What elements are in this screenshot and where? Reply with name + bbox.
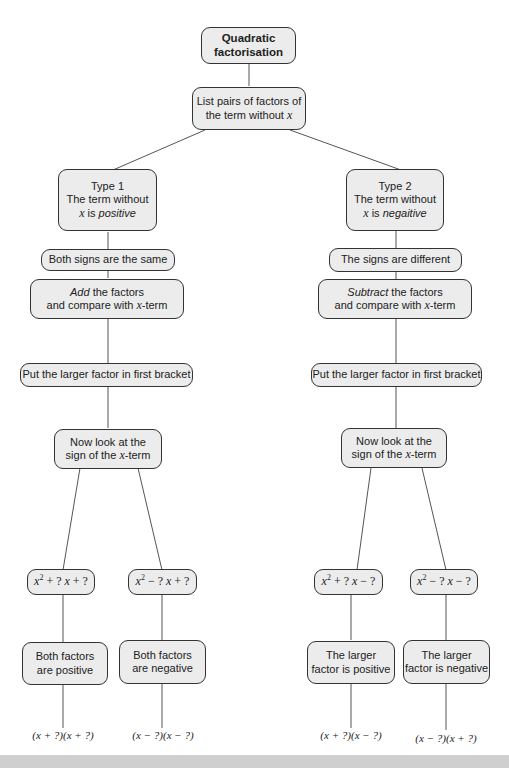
type1-result-2: (x − ?)(x − ?) (118, 729, 208, 741)
bottom-band (0, 755, 509, 768)
title-line2: factorisation (214, 46, 283, 60)
title-node: Quadratic factorisation (201, 27, 296, 64)
type2-signs-text: The signs are different (341, 253, 450, 267)
type1-desc-2: Both factors are negative (119, 640, 206, 684)
list-factors-node: List pairs of factors of the term withou… (192, 87, 306, 130)
type2-formula-1: x2 + ? x − ? (314, 569, 383, 595)
type2-desc-1: The larger factor is positive (307, 641, 395, 684)
type1-add-line1: Add the factors (70, 286, 144, 300)
type1-signs-text: Both signs are the same (49, 253, 168, 267)
type2-look-line1: Now look at the (356, 435, 432, 449)
type1-heading: Type 1 (91, 180, 124, 194)
type2-formula-2: x2 − ? x − ? (410, 569, 478, 595)
type2-subtract-node: Subtract the factors and compare with x-… (318, 279, 472, 319)
title-line1: Quadratic (222, 32, 276, 46)
type1-signs-node: Both signs are the same (41, 249, 175, 271)
list-factors-line1: List pairs of factors of (197, 95, 302, 109)
type2-result-1: (x + ?)(x − ?) (306, 729, 396, 741)
type2-desc-2: The larger factor is negative (403, 640, 490, 684)
type1-formula-2: x2 − ? x + ? (128, 569, 197, 595)
type1-line3: x is positive (79, 207, 136, 221)
type1-formula-1: x2 + ? x + ? (27, 569, 95, 595)
type1-add-line2: and compare with x-term (47, 299, 168, 313)
type2-line2: The term without (354, 193, 436, 207)
type1-bracket-node: Put the larger factor in first bracket (20, 363, 193, 387)
type2-look-node: Now look at the sign of the x-term (341, 428, 447, 468)
type2-node: Type 2 The term without x is negaitive (346, 169, 444, 231)
list-factors-line2: the term without x (206, 109, 293, 123)
type2-look-line2: sign of the x-term (352, 448, 437, 462)
type1-desc-1: Both factors are positive (22, 642, 108, 685)
type2-subtract-line2: and compare with x-term (335, 299, 456, 313)
type1-result-1: (x + ?)(x + ?) (18, 729, 108, 741)
type2-result-2: (x − ?)(x + ?) (401, 732, 491, 744)
type1-look-line1: Now look at the (70, 436, 146, 450)
type2-signs-node: The signs are different (329, 248, 462, 272)
type1-look-node: Now look at the sign of the x-term (54, 429, 162, 469)
type2-bracket-text: Put the larger factor in first bracket (312, 368, 480, 382)
type1-add-node: Add the factors and compare with x-term (30, 279, 184, 319)
type2-subtract-line1: Subtract the factors (347, 286, 442, 300)
type2-line3: x is negaitive (363, 207, 426, 221)
type1-line2: The term without (67, 193, 149, 207)
type1-node: Type 1 The term without x is positive (58, 169, 157, 231)
type1-bracket-text: Put the larger factor in first bracket (22, 368, 190, 382)
type2-bracket-node: Put the larger factor in first bracket (311, 363, 482, 387)
type1-look-line2: sign of the x-term (66, 449, 151, 463)
type2-heading: Type 2 (378, 180, 411, 194)
